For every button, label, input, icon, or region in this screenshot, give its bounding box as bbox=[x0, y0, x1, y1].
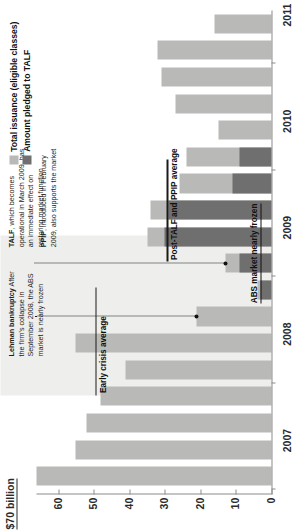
y-axis-tick-label: 0 bbox=[264, 497, 276, 527]
annotation-title: Lehman bankruptcy bbox=[6, 288, 15, 356]
bar-total-issuance bbox=[86, 413, 271, 432]
legend-item-total[interactable]: Total issuance (eligible classes) bbox=[8, 21, 18, 164]
callout-abs-frozen: ABS market nearly frozen bbox=[249, 203, 261, 303]
y-axis-tick-label: 40 bbox=[122, 497, 134, 527]
x-axis-year-label: 2007 bbox=[280, 428, 292, 451]
legend-label-talf: Amount pledged to TALF bbox=[21, 49, 31, 151]
bar-total-issuance bbox=[161, 67, 271, 86]
leader-line bbox=[34, 262, 225, 263]
bar-pledged-to-talf bbox=[260, 280, 271, 299]
y-axis-tick-label: 60 bbox=[51, 497, 63, 527]
annotation-title: PPIP bbox=[38, 230, 47, 246]
leader-dot bbox=[194, 314, 198, 318]
bar-total-issuance bbox=[100, 386, 271, 405]
bar-total-issuance bbox=[125, 360, 271, 379]
y-axis-tick-label: 50 bbox=[86, 497, 98, 527]
chart-legend: Total issuance (eligible classes)Amount … bbox=[8, 21, 34, 164]
x-axis-tick bbox=[271, 488, 275, 489]
x-axis-tick bbox=[271, 275, 275, 276]
legend-label-total: Total issuance (eligible classes) bbox=[8, 21, 18, 151]
legend-swatch-total bbox=[9, 155, 18, 164]
annotation-ppip: PPIP, introduced in February 2009, also … bbox=[38, 147, 57, 247]
bar-total-issuance bbox=[157, 40, 271, 59]
legend-item-talf[interactable]: Amount pledged to TALF bbox=[21, 21, 31, 164]
reference-average-line bbox=[95, 287, 97, 395]
x-axis-year-label: 2009 bbox=[280, 216, 292, 239]
x-axis-year-label: 2011 bbox=[280, 3, 292, 26]
annotation-title: TALF bbox=[6, 229, 15, 247]
x-axis-tick bbox=[271, 62, 275, 63]
x-axis-tick bbox=[271, 382, 275, 383]
bar-total-issuance bbox=[75, 440, 271, 459]
annotation-lehman: Lehman bankruptcy After the firm's colla… bbox=[6, 270, 45, 356]
y-axis-line bbox=[36, 493, 271, 494]
leader-dot bbox=[223, 261, 227, 265]
x-axis-line bbox=[271, 10, 272, 494]
reference-average-line bbox=[166, 159, 168, 261]
y-axis-tick-label: 30 bbox=[157, 497, 169, 527]
y-axis-tick-label: 10 bbox=[228, 497, 240, 527]
x-axis-year-label: 2008 bbox=[280, 322, 292, 345]
reference-average-label: Early crisis average bbox=[98, 316, 107, 393]
bar-total-issuance bbox=[218, 120, 271, 139]
bar-total-issuance bbox=[196, 306, 271, 325]
bar-pledged-to-talf bbox=[232, 173, 271, 192]
x-axis-year-label: 2010 bbox=[280, 109, 292, 132]
reference-average-label: Post-TALF and PPIP average bbox=[169, 148, 178, 260]
leader-line bbox=[34, 315, 196, 316]
chart-plot-area: 0102030405060$70 billion2007200820092010… bbox=[0, 0, 301, 531]
bar-pledged-to-talf bbox=[239, 147, 271, 166]
y-axis-tick-label: 20 bbox=[193, 497, 205, 527]
bar-total-issuance bbox=[214, 14, 271, 33]
legend-swatch-talf bbox=[22, 155, 31, 164]
chart-figure: 0102030405060$70 billion2007200820092010… bbox=[0, 0, 301, 531]
x-axis-tick bbox=[271, 169, 275, 170]
y-axis-unit-label: $70 billion bbox=[3, 478, 17, 529]
bar-total-issuance bbox=[175, 94, 271, 113]
bar-total-issuance bbox=[36, 466, 271, 485]
